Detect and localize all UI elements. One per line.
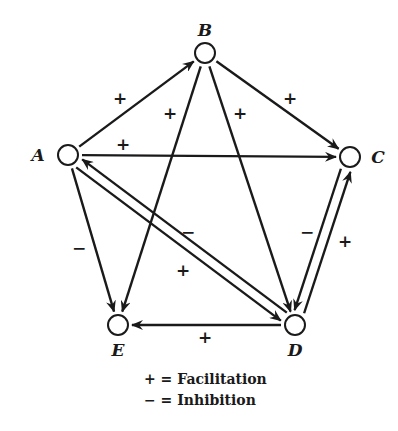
equals-sign: = xyxy=(161,392,173,408)
network-diagram: +++++−−+−++ ABCDE xyxy=(0,0,398,431)
sign-d-to-a: + xyxy=(176,260,190,280)
sign-d-to-c: − xyxy=(300,222,314,242)
node-label-b: B xyxy=(197,20,212,40)
sign-c-to-d: + xyxy=(338,231,352,251)
sign-d-to-e: + xyxy=(198,327,212,347)
equals-sign: = xyxy=(161,371,173,387)
sign-b-to-d: + xyxy=(233,103,247,123)
edges: +++++−−+−++ xyxy=(72,61,352,347)
sign-b-to-c: + xyxy=(283,88,297,108)
node-d xyxy=(285,315,305,335)
edge-d-to-a xyxy=(82,159,287,312)
node-label-c: C xyxy=(371,147,385,167)
inhibition-label: Inhibition xyxy=(177,392,256,408)
legend-facilitation: + = Facilitation xyxy=(144,369,267,390)
edge-a-to-c xyxy=(82,155,336,157)
legend-inhibition: − = Inhibition xyxy=(144,390,267,411)
minus-symbol: − xyxy=(144,392,156,408)
node-label-e: E xyxy=(111,340,126,360)
node-e xyxy=(108,315,128,335)
nodes: ABCDE xyxy=(29,20,385,360)
plus-symbol: + xyxy=(144,371,156,387)
node-a xyxy=(58,145,78,165)
sign-a-to-c: + xyxy=(116,134,130,154)
legend: + = Facilitation − = Inhibition xyxy=(144,369,267,411)
node-c xyxy=(340,147,360,167)
node-label-a: A xyxy=(29,145,44,165)
facilitation-label: Facilitation xyxy=(177,371,267,387)
sign-a-to-b: + xyxy=(113,88,127,108)
sign-a-to-e: − xyxy=(72,238,86,258)
sign-b-to-e: + xyxy=(163,103,177,123)
node-label-d: D xyxy=(287,340,303,360)
node-b xyxy=(195,43,215,63)
